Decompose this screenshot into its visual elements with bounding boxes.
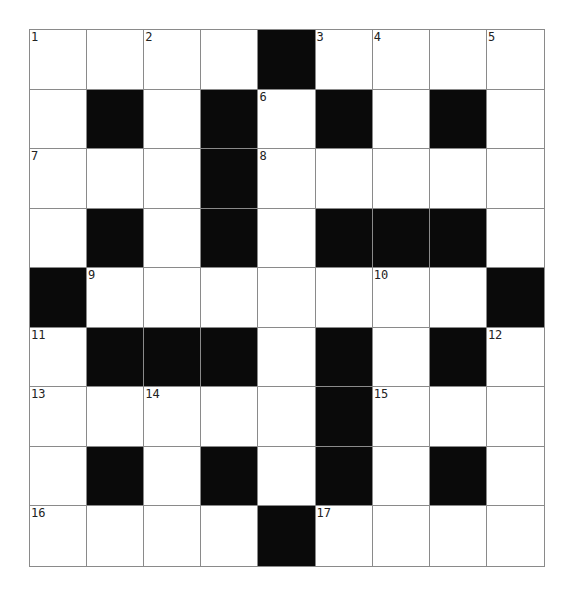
black-square: [316, 387, 373, 447]
answer-cell[interactable]: [201, 30, 258, 90]
answer-cell[interactable]: 7: [30, 149, 87, 209]
clue-number: 6: [259, 91, 266, 103]
black-square: [201, 447, 258, 507]
answer-cell[interactable]: [258, 447, 315, 507]
black-square: [487, 268, 544, 328]
answer-cell[interactable]: 1: [30, 30, 87, 90]
answer-cell[interactable]: [258, 268, 315, 328]
black-square: [373, 209, 430, 269]
answer-cell[interactable]: [258, 387, 315, 447]
answer-cell[interactable]: [30, 209, 87, 269]
clue-number: 17: [317, 507, 331, 519]
answer-cell[interactable]: [487, 209, 544, 269]
answer-cell[interactable]: [144, 447, 201, 507]
answer-cell[interactable]: [487, 447, 544, 507]
black-square: [201, 328, 258, 388]
answer-cell[interactable]: [30, 90, 87, 150]
black-square: [430, 209, 487, 269]
answer-cell[interactable]: [430, 506, 487, 566]
answer-cell[interactable]: [316, 149, 373, 209]
answer-cell[interactable]: [430, 268, 487, 328]
answer-cell[interactable]: [201, 387, 258, 447]
answer-cell[interactable]: [430, 387, 487, 447]
clue-number: 2: [145, 31, 152, 43]
answer-cell[interactable]: 12: [487, 328, 544, 388]
black-square: [30, 268, 87, 328]
answer-cell[interactable]: [201, 268, 258, 328]
answer-cell[interactable]: [373, 328, 430, 388]
answer-cell[interactable]: [87, 506, 144, 566]
answer-cell[interactable]: [87, 149, 144, 209]
answer-cell[interactable]: 3: [316, 30, 373, 90]
answer-cell[interactable]: [430, 149, 487, 209]
black-square: [316, 447, 373, 507]
black-square: [316, 90, 373, 150]
answer-cell[interactable]: [144, 268, 201, 328]
answer-cell[interactable]: 17: [316, 506, 373, 566]
answer-cell[interactable]: [144, 506, 201, 566]
clue-number: 11: [31, 329, 45, 341]
answer-cell[interactable]: [373, 90, 430, 150]
clue-number: 9: [88, 269, 95, 281]
answer-cell[interactable]: [373, 506, 430, 566]
answer-cell[interactable]: 15: [373, 387, 430, 447]
black-square: [87, 447, 144, 507]
black-square: [316, 328, 373, 388]
crossword-grid: 1234567891011121314151617: [29, 29, 545, 567]
black-square: [87, 90, 144, 150]
answer-cell[interactable]: 10: [373, 268, 430, 328]
answer-cell[interactable]: 4: [373, 30, 430, 90]
answer-cell[interactable]: [487, 149, 544, 209]
answer-cell[interactable]: [30, 447, 87, 507]
answer-cell[interactable]: [487, 387, 544, 447]
black-square: [258, 506, 315, 566]
clue-number: 7: [31, 150, 38, 162]
answer-cell[interactable]: 5: [487, 30, 544, 90]
clue-number: 12: [488, 329, 502, 341]
black-square: [316, 209, 373, 269]
black-square: [201, 149, 258, 209]
black-square: [258, 30, 315, 90]
black-square: [201, 90, 258, 150]
clue-number: 8: [259, 150, 266, 162]
clue-number: 5: [488, 31, 495, 43]
answer-cell[interactable]: [487, 506, 544, 566]
answer-cell[interactable]: 6: [258, 90, 315, 150]
clue-number: 1: [31, 31, 38, 43]
answer-cell[interactable]: [316, 268, 373, 328]
answer-cell[interactable]: [258, 209, 315, 269]
answer-cell[interactable]: 16: [30, 506, 87, 566]
black-square: [430, 90, 487, 150]
answer-cell[interactable]: [87, 387, 144, 447]
black-square: [144, 328, 201, 388]
answer-cell[interactable]: [87, 30, 144, 90]
answer-cell[interactable]: [144, 149, 201, 209]
black-square: [430, 328, 487, 388]
black-square: [87, 209, 144, 269]
black-square: [430, 447, 487, 507]
answer-cell[interactable]: [144, 90, 201, 150]
answer-cell[interactable]: [201, 506, 258, 566]
answer-cell[interactable]: 8: [258, 149, 315, 209]
answer-cell[interactable]: 9: [87, 268, 144, 328]
answer-cell[interactable]: 11: [30, 328, 87, 388]
clue-number: 16: [31, 507, 45, 519]
answer-cell[interactable]: [144, 209, 201, 269]
clue-number: 10: [374, 269, 388, 281]
answer-cell[interactable]: 14: [144, 387, 201, 447]
answer-cell[interactable]: [258, 328, 315, 388]
black-square: [201, 209, 258, 269]
answer-cell[interactable]: [487, 90, 544, 150]
clue-number: 15: [374, 388, 388, 400]
clue-number: 13: [31, 388, 45, 400]
answer-cell[interactable]: [430, 30, 487, 90]
answer-cell[interactable]: [373, 149, 430, 209]
black-square: [87, 328, 144, 388]
answer-cell[interactable]: 2: [144, 30, 201, 90]
clue-number: 4: [374, 31, 381, 43]
clue-number: 14: [145, 388, 159, 400]
answer-cell[interactable]: 13: [30, 387, 87, 447]
answer-cell[interactable]: [373, 447, 430, 507]
clue-number: 3: [317, 31, 324, 43]
